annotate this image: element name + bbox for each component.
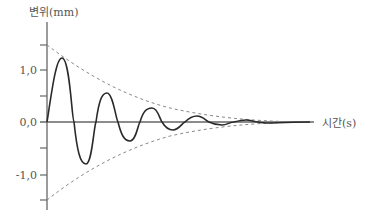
- displacement-curve: [47, 58, 310, 164]
- y-tick-label-neg1: -1,0: [16, 169, 37, 182]
- upper-envelope: [47, 45, 300, 122]
- y-tick-label-1: 1,0: [20, 64, 38, 77]
- y-tick-label-0: 0,0: [20, 116, 38, 129]
- lower-envelope: [47, 122, 300, 200]
- damped-oscillation-chart: 1,0 0,0 -1,0: [0, 0, 370, 221]
